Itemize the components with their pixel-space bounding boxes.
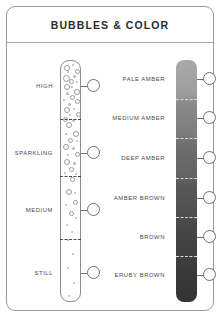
color-knob-brown[interactable]	[203, 230, 216, 243]
color-knob-eruby-brown[interactable]	[203, 268, 216, 281]
bubble-divider	[60, 176, 81, 177]
color-knob-amber-brown[interactable]	[203, 191, 216, 204]
title-divider	[7, 42, 213, 43]
page-title: BUBBLES & COLOR	[7, 19, 213, 31]
bubble-label-still: STILL	[13, 270, 53, 276]
color-divider	[176, 217, 197, 218]
color-label-brown: BROWN	[93, 234, 165, 240]
bubble	[64, 159, 70, 165]
bubble-label-sparkling: SPARKLING	[13, 150, 53, 156]
bubble	[69, 114, 71, 116]
bubble	[67, 71, 69, 73]
bubble	[69, 167, 74, 172]
bubble	[73, 75, 76, 78]
color-knob-pale-amber[interactable]	[203, 72, 216, 85]
color-knob-deep-amber[interactable]	[203, 151, 216, 164]
bubble	[63, 144, 69, 150]
bubble	[69, 211, 74, 216]
color-label-medium-amber: MEDIUM AMBER	[93, 115, 165, 121]
bubble	[75, 173, 77, 175]
bubble	[66, 224, 68, 226]
bubble	[66, 92, 69, 95]
bubble	[65, 133, 67, 135]
bubble	[76, 140, 78, 142]
bubble	[73, 282, 75, 284]
bubble	[70, 177, 75, 182]
color-divider	[176, 99, 197, 100]
bubbles-and-color-card: BUBBLES & COLOR	[6, 6, 214, 311]
bubble	[73, 131, 79, 137]
bubble	[75, 99, 80, 104]
bubble	[73, 162, 76, 165]
bubble	[66, 189, 72, 195]
color-depth-column[interactable]	[176, 60, 197, 302]
bubble	[67, 267, 69, 269]
color-label-eruby-brown: ERUBY BROWN	[93, 272, 165, 278]
bubble	[73, 200, 78, 205]
color-label-pale-amber: PALE AMBER	[93, 76, 165, 82]
bubble	[76, 112, 81, 117]
bubble	[68, 103, 71, 106]
bubble	[74, 89, 80, 95]
color-knob-medium-amber[interactable]	[203, 111, 216, 124]
bubble-label-high: HIGH	[13, 83, 53, 89]
bubble	[66, 122, 72, 128]
bubble	[67, 154, 69, 156]
bubble-label-medium: MEDIUM	[13, 207, 53, 213]
bubble	[72, 253, 74, 255]
bubble	[64, 84, 70, 90]
bubble-knob-medium[interactable]	[87, 203, 100, 216]
bubble	[76, 81, 78, 83]
bubble	[63, 99, 65, 101]
color-divider	[176, 138, 197, 139]
color-divider	[176, 256, 197, 257]
bubble	[71, 231, 73, 233]
color-divider	[176, 178, 197, 179]
bubble	[72, 147, 75, 150]
bubble-intensity-column[interactable]	[60, 60, 81, 302]
bubble-divider	[60, 119, 81, 120]
bubble	[65, 204, 67, 206]
bubble	[73, 108, 75, 110]
bubble	[75, 152, 80, 157]
bubble	[75, 69, 80, 74]
color-label-amber-brown: AMBER BROWN	[93, 195, 165, 201]
bubble	[74, 192, 76, 194]
bubble	[69, 79, 74, 84]
bubble	[68, 138, 73, 143]
bubble	[71, 86, 73, 88]
bubble	[70, 95, 75, 100]
color-label-deep-amber: DEEP AMBER	[93, 155, 165, 161]
bubble	[68, 295, 70, 297]
bubble	[75, 217, 77, 219]
bubble	[72, 64, 74, 66]
bubble	[64, 172, 66, 174]
bubble-divider	[60, 239, 81, 240]
bubble	[64, 107, 70, 113]
